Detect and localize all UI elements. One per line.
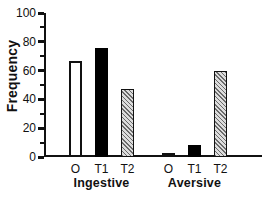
bar-column-t2: T2	[214, 71, 227, 157]
bar-column-t1: T1	[188, 145, 201, 157]
y-tick-label: 60	[8, 64, 36, 78]
bar-ingestive-o	[69, 61, 82, 157]
bar-tick-label: O	[164, 162, 173, 176]
bar-ingestive-t2	[121, 89, 134, 157]
y-major-tick	[38, 12, 44, 15]
y-major-tick	[38, 98, 44, 101]
y-major-tick	[38, 156, 44, 159]
bar-tick-label: O	[71, 162, 80, 176]
bar-group-ingestive: OT1T2	[69, 48, 134, 157]
bar-aversive-o	[162, 153, 175, 157]
y-tick-label: 0	[8, 150, 36, 164]
bar-tick-label: T2	[120, 162, 134, 176]
bar-ingestive-t1	[95, 48, 108, 157]
y-major-tick	[38, 127, 44, 130]
bar-column-o: O	[69, 61, 82, 157]
bar-aversive-t1	[188, 145, 201, 157]
bar-tick-label: T1	[187, 162, 201, 176]
bar-tick-label: T1	[94, 162, 108, 176]
y-major-tick	[38, 69, 44, 72]
y-minor-tick	[40, 113, 44, 115]
bar-tick-label: T2	[213, 162, 227, 176]
y-minor-tick	[40, 84, 44, 86]
bar-column-t1: T1	[95, 48, 108, 157]
y-tick-label: 40	[8, 92, 36, 106]
y-tick-label: 100	[8, 6, 36, 20]
bar-aversive-t2	[214, 71, 227, 157]
y-major-tick	[38, 40, 44, 43]
group-label-aversive: Aversive	[168, 176, 221, 190]
y-tick-label: 80	[8, 35, 36, 49]
y-tick-label: 20	[8, 121, 36, 135]
group-label-ingestive: Ingestive	[74, 176, 130, 190]
y-minor-tick	[40, 55, 44, 57]
bar-column-o: O	[162, 153, 175, 157]
bar-column-t2: T2	[121, 89, 134, 157]
frequency-bar-chart: Frequency 020406080100OT1T2IngestiveOT1T…	[0, 0, 271, 199]
bar-group-aversive: OT1T2	[162, 71, 227, 157]
y-minor-tick	[40, 26, 44, 28]
y-minor-tick	[40, 142, 44, 144]
